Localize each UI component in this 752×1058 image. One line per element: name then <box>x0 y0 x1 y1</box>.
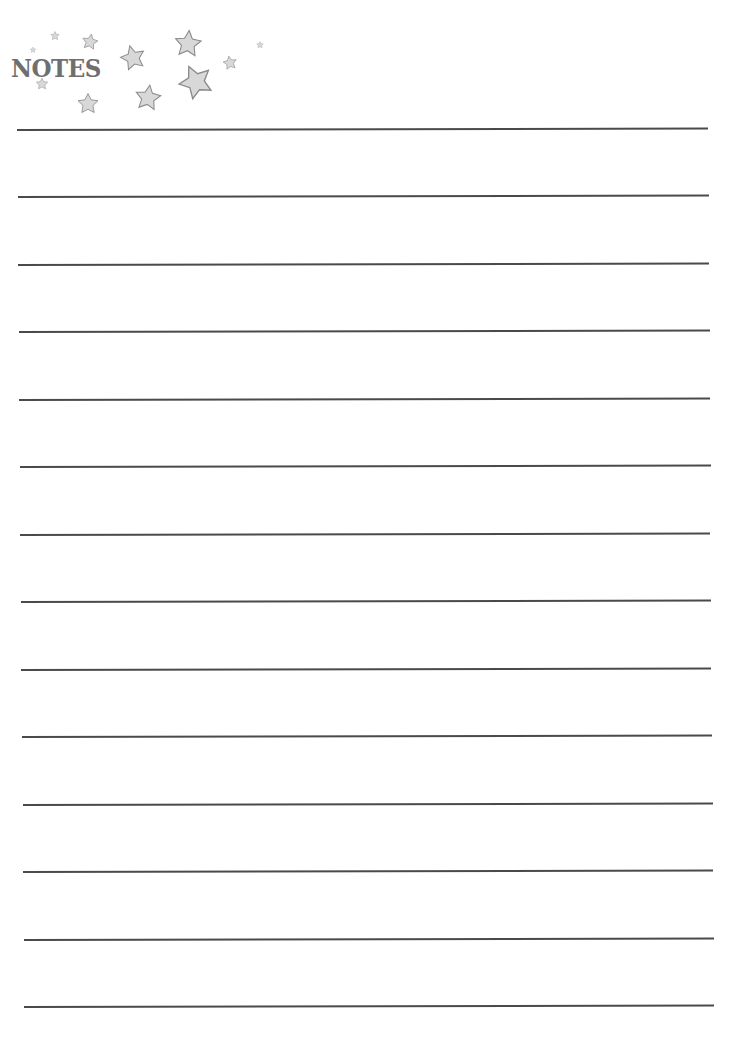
writing-line <box>21 600 711 603</box>
notes-page: NOTES <box>0 0 752 1058</box>
writing-line <box>18 263 709 266</box>
writing-line <box>23 870 713 873</box>
writing-line <box>24 1005 714 1008</box>
writing-line <box>18 195 709 198</box>
writing-line <box>19 398 710 401</box>
writing-line <box>21 668 711 671</box>
writing-line <box>20 533 710 536</box>
writing-line <box>22 735 712 738</box>
writing-line <box>19 330 710 333</box>
writing-line <box>20 465 711 468</box>
writing-line <box>24 938 714 941</box>
writing-line <box>17 128 708 131</box>
page-title: NOTES <box>11 54 101 82</box>
writing-line <box>22 803 712 806</box>
